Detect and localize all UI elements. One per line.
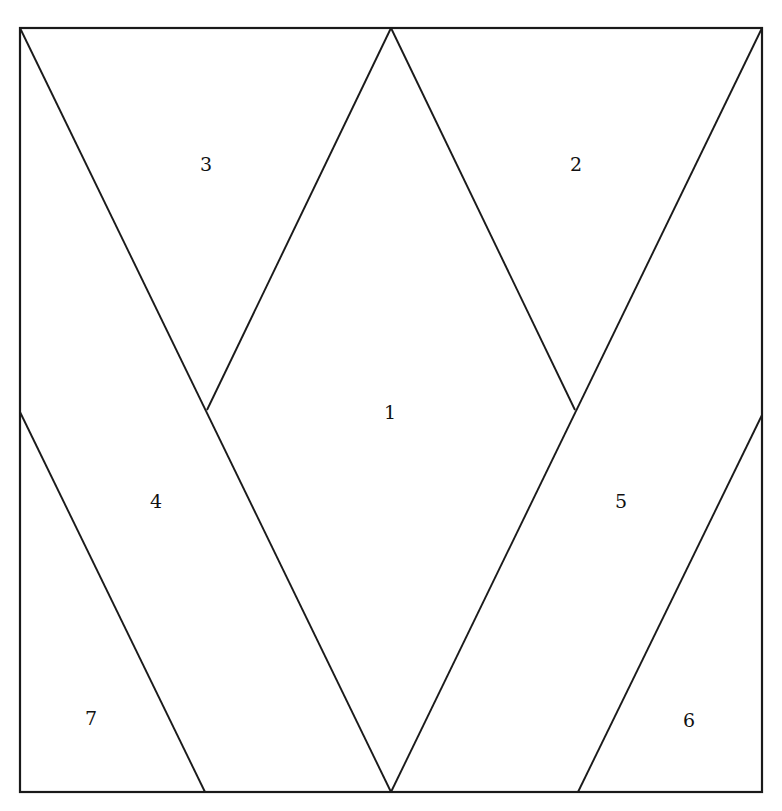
region-label-7: 7 <box>85 707 97 729</box>
region-label-3: 3 <box>200 153 212 175</box>
region-label-2: 2 <box>570 153 582 175</box>
region-label-6: 6 <box>683 709 695 731</box>
region-label-4: 4 <box>150 490 162 512</box>
line-right-edge-to-bottom-edge <box>578 415 762 792</box>
geometric-partition-figure: 3 2 1 4 5 7 6 <box>0 0 782 811</box>
diagram-canvas: 3 2 1 4 5 7 6 <box>0 0 782 811</box>
region-label-5: 5 <box>615 490 627 512</box>
line-top-apex-to-diamond-right <box>391 28 575 410</box>
region-label-1: 1 <box>384 401 396 423</box>
line-left-edge-to-bottom-edge <box>20 412 205 792</box>
line-top-apex-to-diamond-left <box>207 28 391 410</box>
region-labels-group: 3 2 1 4 5 7 6 <box>85 153 695 731</box>
